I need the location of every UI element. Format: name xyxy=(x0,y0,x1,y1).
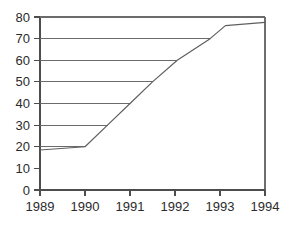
y-tick-label: 80 xyxy=(16,10,30,25)
y-axis-tick-labels: 01020304050607080 xyxy=(16,10,30,198)
y-axis: 01020304050607080 xyxy=(16,10,40,198)
y-tick-label: 30 xyxy=(16,118,30,133)
x-axis-tick-labels: 198919901991199219931994 xyxy=(26,199,280,214)
x-tick-label: 1993 xyxy=(206,199,235,214)
x-axis: 198919901991199219931994 xyxy=(26,190,280,214)
y-tick-label: 50 xyxy=(16,74,30,89)
y-axis-tick-marks xyxy=(34,17,40,190)
data-line-series-1 xyxy=(40,22,265,150)
x-tick-label: 1989 xyxy=(26,199,55,214)
x-tick-label: 1994 xyxy=(251,199,280,214)
chart-container: 01020304050607080 1989199019911992199319… xyxy=(0,0,285,227)
y-tick-label: 60 xyxy=(16,53,30,68)
x-tick-label: 1992 xyxy=(161,199,190,214)
y-tick-label: 20 xyxy=(16,139,30,154)
line-chart: 01020304050607080 1989199019911992199319… xyxy=(0,0,285,227)
y-tick-label: 10 xyxy=(16,161,30,176)
y-tick-label: 0 xyxy=(23,183,30,198)
x-tick-label: 1991 xyxy=(116,199,145,214)
x-tick-label: 1990 xyxy=(71,199,100,214)
data-series-group xyxy=(40,22,265,150)
x-axis-tick-marks xyxy=(40,190,265,196)
y-tick-label: 40 xyxy=(16,96,30,111)
y-tick-label: 70 xyxy=(16,31,30,46)
